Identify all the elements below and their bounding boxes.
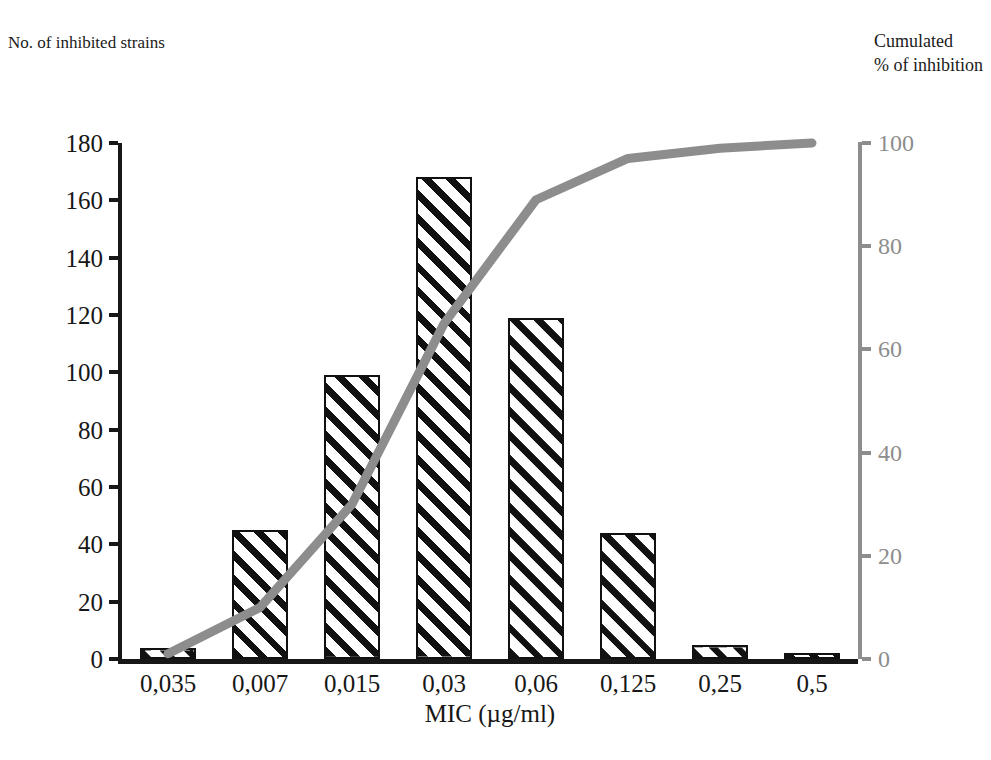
chart-figure: No. of inhibited strains Cumulated % of … [0, 0, 991, 760]
x-axis-tick-label: 0,25 [698, 671, 742, 696]
y2-axis-tick-label: 40 [878, 441, 902, 465]
y2-axis-tick-label: 0 [878, 647, 890, 671]
x-axis-tick-label: 0,035 [140, 671, 196, 696]
cumulative-line-path [168, 143, 812, 654]
y2-axis-tick [862, 347, 871, 351]
y-axis-tick-label: 60 [78, 475, 103, 500]
y-axis-tick [109, 141, 118, 145]
y-axis-tick [109, 428, 118, 432]
y2-axis-tick [862, 244, 871, 248]
y-axis-tick [109, 542, 118, 546]
x-axis-tick-label: 0,03 [422, 671, 466, 696]
y2-axis-tick-label: 100 [878, 131, 914, 155]
left-axis-title: No. of inhibited strains [8, 32, 165, 54]
page-caption [6, 742, 985, 760]
y-axis-tick-label: 160 [66, 188, 104, 213]
y-axis-tick-label: 20 [78, 589, 103, 614]
right-axis-title-line-1: Cumulated [874, 30, 983, 54]
bottom-axis-spine [118, 659, 858, 664]
x-axis-tick-label: 0,015 [324, 671, 380, 696]
y-axis-tick [109, 657, 118, 661]
y2-axis-tick-label: 20 [878, 544, 902, 568]
y2-axis-tick-label: 80 [878, 234, 902, 258]
y-axis-tick-label: 120 [66, 303, 104, 328]
y2-axis-tick [862, 657, 871, 661]
right-axis-spine [858, 142, 862, 659]
y-axis-tick [109, 600, 118, 604]
y2-axis-tick-label: 60 [878, 337, 902, 361]
y-axis-tick-label: 40 [78, 532, 103, 557]
y-axis-tick [109, 313, 118, 317]
y2-axis-tick [862, 451, 871, 455]
x-axis-tick-label: 0,5 [796, 671, 827, 696]
y-axis-tick-label: 140 [66, 245, 104, 270]
plot-area: 0204060801001201401601800204060801000,03… [122, 143, 858, 659]
x-axis-tick-label: 0,125 [600, 671, 656, 696]
y-axis-tick [109, 256, 118, 260]
y-axis-tick-label: 100 [66, 360, 104, 385]
x-axis-tick-label: 0,007 [232, 671, 288, 696]
right-axis-title-line-2: % of inhibition [874, 54, 983, 78]
right-axis-title: Cumulated % of inhibition [874, 30, 983, 78]
cumulative-inhibition-line [122, 143, 858, 659]
y2-axis-tick [862, 141, 871, 145]
y-axis-tick [109, 198, 118, 202]
y2-axis-tick [862, 554, 871, 558]
y-axis-tick-label: 180 [66, 131, 104, 156]
y-axis-tick-label: 80 [78, 417, 103, 442]
y-axis-tick [109, 485, 118, 489]
x-axis-title: MIC (µg/ml) [122, 700, 858, 728]
y-axis-tick-label: 0 [91, 647, 104, 672]
x-axis-tick-label: 0,06 [514, 671, 558, 696]
y-axis-tick [109, 370, 118, 374]
